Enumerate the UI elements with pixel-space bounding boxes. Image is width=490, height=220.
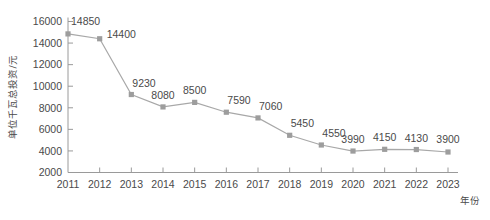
data-point-marker[interactable]: [414, 147, 419, 152]
x-tick-label: 2011: [57, 178, 80, 190]
data-point-label: 3900: [436, 133, 460, 145]
data-point-marker[interactable]: [287, 133, 292, 138]
x-tick-label: 2019: [310, 178, 334, 190]
data-point-marker[interactable]: [65, 31, 70, 36]
x-tick-label: 2017: [246, 178, 270, 190]
x-tick-label: 2023: [436, 178, 460, 190]
data-point-marker[interactable]: [255, 115, 260, 120]
y-tick-label: 4000: [39, 145, 63, 157]
x-tick-label: 2016: [215, 178, 239, 190]
data-point-label: 8080: [151, 89, 175, 101]
data-point-label: 3990: [341, 133, 365, 145]
data-point-label: 7060: [259, 100, 283, 112]
data-point-label: 8500: [183, 84, 207, 96]
x-tick-label: 2018: [278, 178, 302, 190]
data-point-label: 7590: [227, 94, 251, 106]
data-point-label: 9230: [132, 77, 156, 89]
line-chart: 2000400060008000100001200014000160002011…: [0, 0, 490, 220]
y-tick-label: 10000: [33, 80, 62, 92]
data-point-marker[interactable]: [319, 142, 324, 147]
x-tick-label: 2021: [373, 178, 397, 190]
x-tick-label: 2014: [151, 178, 175, 190]
y-tick-label: 8000: [39, 102, 63, 114]
y-tick-label: 14000: [33, 37, 62, 49]
y-axis-title: 单位千瓦总投资/元: [7, 55, 18, 138]
data-point-label: 5450: [291, 117, 315, 129]
data-point-label: 14400: [107, 28, 136, 40]
data-point-label: 14850: [71, 15, 100, 27]
data-point-marker[interactable]: [160, 104, 165, 109]
x-tick-label: 2015: [183, 178, 207, 190]
x-tick-label: 2022: [405, 178, 429, 190]
y-tick-label: 16000: [33, 15, 62, 27]
x-axis-title: 年份: [460, 195, 480, 206]
y-tick-label: 12000: [33, 58, 62, 70]
y-tick-label: 2000: [39, 166, 63, 178]
data-point-marker[interactable]: [350, 148, 355, 153]
data-point-marker[interactable]: [382, 147, 387, 152]
data-point-marker[interactable]: [97, 36, 102, 41]
data-point-marker[interactable]: [192, 100, 197, 105]
chart-canvas: 2000400060008000100001200014000160002011…: [0, 0, 490, 220]
y-tick-label: 6000: [39, 123, 63, 135]
x-tick-label: 2020: [341, 178, 365, 190]
data-point-marker[interactable]: [224, 110, 229, 115]
x-tick-label: 2012: [88, 178, 112, 190]
data-point-label: 4130: [405, 132, 429, 144]
x-tick-label: 2013: [120, 178, 144, 190]
data-point-label: 4150: [373, 131, 397, 143]
data-point-marker[interactable]: [445, 149, 450, 154]
data-point-marker[interactable]: [129, 92, 134, 97]
